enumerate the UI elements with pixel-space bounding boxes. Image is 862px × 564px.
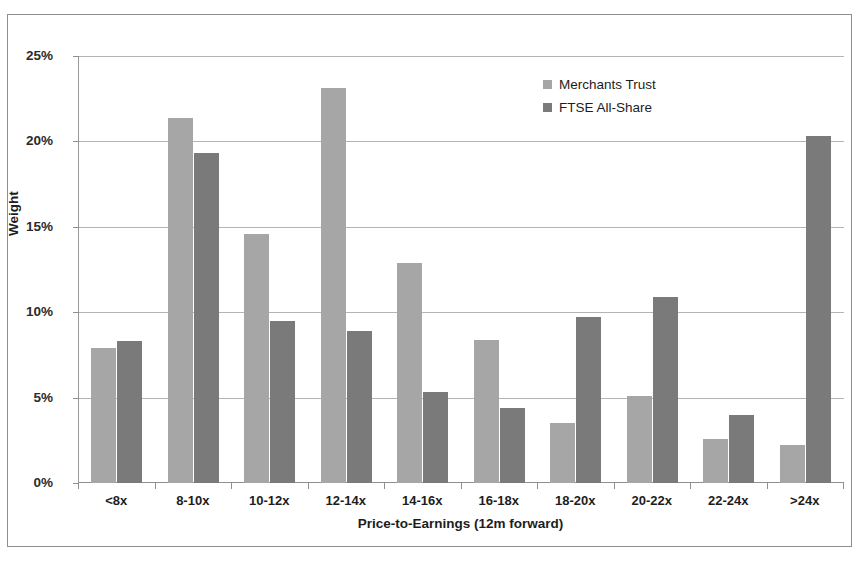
bar-merchants-trust[interactable] [321,88,346,483]
bar-ftse-all-share[interactable] [653,297,678,483]
x-axis-tick-label: >24x [760,493,850,508]
x-axis-tick-mark [231,483,232,489]
bar-group [537,56,614,483]
x-axis-tick-mark [614,483,615,489]
bar-chart: Weight 0%5%10%15%20%25% <8x8-10x10-12x12… [0,0,862,564]
bar-ftse-all-share[interactable] [270,321,295,483]
bar-ftse-all-share[interactable] [576,317,601,483]
bar-group [308,56,385,483]
legend-swatch-icon [543,103,552,112]
bar-group [78,56,155,483]
bar-group [614,56,691,483]
bar-merchants-trust[interactable] [780,445,805,483]
bar-ftse-all-share[interactable] [806,136,831,483]
legend-item-merchants-trust[interactable]: Merchants Trust [543,73,656,96]
chart-legend: Merchants TrustFTSE All-Share [543,73,656,119]
bar-group [767,56,844,483]
bar-group [690,56,767,483]
bar-merchants-trust[interactable] [397,263,422,483]
x-axis-title: Price-to-Earnings (12m forward) [78,516,843,531]
bar-merchants-trust[interactable] [474,340,499,483]
x-axis-tick-mark [78,483,79,489]
x-axis-tick-mark [308,483,309,489]
x-axis-tick-mark [461,483,462,489]
legend-label: Merchants Trust [559,77,656,92]
y-axis-tick-label: 20% [0,133,53,148]
bar-group [155,56,232,483]
bar-merchants-trust[interactable] [244,234,269,483]
y-axis-tick-label: 10% [0,304,53,319]
bar-merchants-trust[interactable] [550,423,575,483]
y-axis-tick-label: 25% [0,48,53,63]
x-axis-tick-mark [384,483,385,489]
y-axis-tick-label: 15% [0,219,53,234]
x-axis-tick-mark [537,483,538,489]
legend-label: FTSE All-Share [559,100,652,115]
bar-group [461,56,538,483]
bar-ftse-all-share[interactable] [347,331,372,483]
x-axis-tick-mark [155,483,156,489]
bar-ftse-all-share[interactable] [500,408,525,483]
x-axis-tick-mark [767,483,768,489]
bar-merchants-trust[interactable] [168,118,193,484]
bar-merchants-trust[interactable] [91,348,116,483]
bar-ftse-all-share[interactable] [729,415,754,483]
x-axis-tick-mark [690,483,691,489]
bar-ftse-all-share[interactable] [117,341,142,483]
bar-merchants-trust[interactable] [703,439,728,483]
bar-merchants-trust[interactable] [627,396,652,483]
y-axis-tick-label: 0% [0,475,53,490]
bar-ftse-all-share[interactable] [194,153,219,483]
legend-swatch-icon [543,80,552,89]
bar-group [384,56,461,483]
bar-ftse-all-share[interactable] [423,392,448,483]
y-axis-tick-label: 5% [0,390,53,405]
legend-item-ftse-all-share[interactable]: FTSE All-Share [543,96,656,119]
bar-group [231,56,308,483]
bars-layer [78,56,843,483]
x-axis-tick-mark [843,483,844,489]
